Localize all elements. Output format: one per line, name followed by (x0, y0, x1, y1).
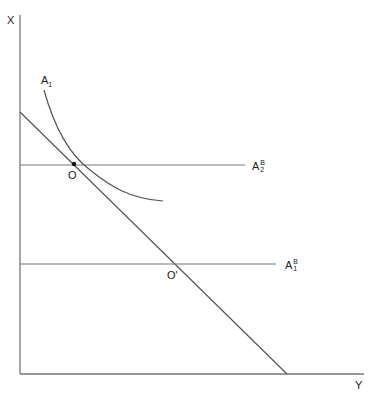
intersection-point-label: O' (167, 270, 178, 281)
curve-label-sub: 1 (48, 81, 52, 88)
vertical-axis-label: X (7, 15, 14, 26)
line-label-a1b: A B 1 (285, 258, 298, 272)
diagonal-line (20, 112, 287, 374)
line-label-sup: B (293, 258, 298, 265)
tangency-point-label: O (68, 170, 77, 181)
indifference-curve-a1 (44, 90, 163, 201)
line-label-sub: 1 (293, 265, 298, 272)
line-label-base: A (285, 260, 292, 271)
diagram-canvas (0, 0, 375, 396)
tangency-point (72, 162, 76, 166)
line-label-sub: 2 (260, 166, 265, 173)
horizontal-axis-label: Y (355, 380, 362, 391)
curve-label-a1: A1 (41, 75, 52, 88)
line-label-a2b: A B 2 (252, 159, 265, 173)
line-label-sup: B (260, 159, 265, 166)
line-label-base: A (252, 161, 259, 172)
